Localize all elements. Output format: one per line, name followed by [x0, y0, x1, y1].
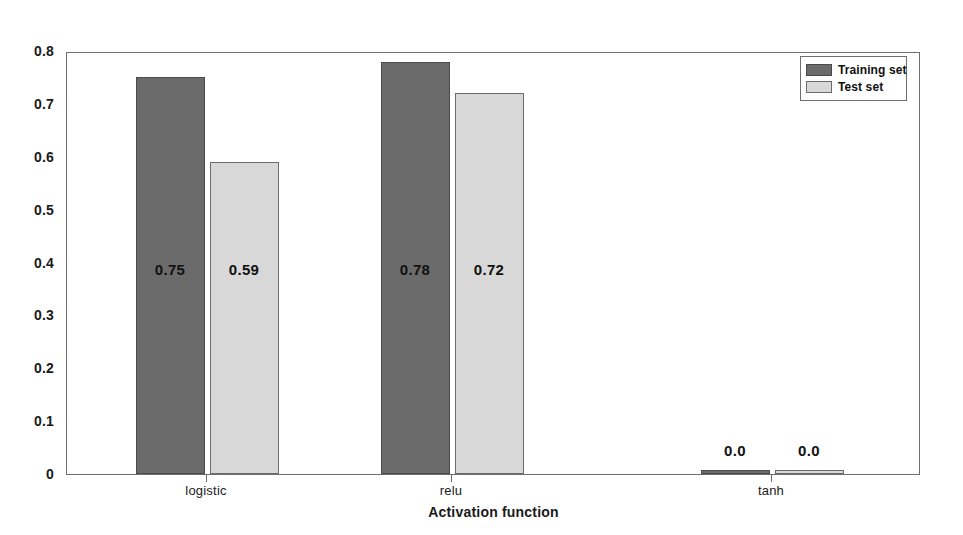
x-axis-category-label-relu: relu [440, 483, 462, 498]
x-axis-category-label-logistic: logistic [185, 483, 226, 498]
bar-value-label: 0.59 [229, 261, 259, 278]
y-axis-tick-label: 0.8 [34, 43, 54, 59]
legend-item-training-set: Training set [806, 61, 901, 78]
chart-legend: Training set Test set [800, 56, 907, 101]
bar-value-label: 0.78 [400, 261, 430, 278]
bar-tanh-test-set[interactable] [775, 470, 844, 474]
x-axis-category-label-tanh: tanh [758, 483, 784, 498]
x-axis-tick-mark [451, 475, 452, 482]
y-axis-tick-label: 0.6 [34, 149, 54, 165]
y-axis-tick-label: 0.3 [34, 307, 54, 323]
bar-value-label: 0.75 [155, 261, 185, 278]
y-axis-tick-label: 0.7 [34, 96, 54, 112]
y-axis-tick-label: 0.4 [34, 255, 54, 271]
bar-logistic-test-set[interactable] [210, 162, 279, 474]
y-axis-tick-label: 0 [46, 466, 54, 482]
legend-label-training-set: Training set [838, 63, 907, 77]
x-axis-title-text: Activation function [428, 504, 559, 520]
plot-area: 0.750.590.780.720.00.0 [66, 52, 920, 475]
x-axis-tick-mark [771, 475, 772, 482]
y-axis-tick-label: 0.2 [34, 360, 54, 376]
bar-relu-test-set[interactable] [455, 93, 524, 474]
y-axis-tick-label: 0.1 [34, 413, 54, 429]
legend-swatch-icon-training-set [806, 64, 832, 76]
legend-swatch-icon-test-set [806, 81, 832, 93]
legend-item-test-set: Test set [806, 78, 901, 95]
x-axis-title: Activation function [0, 504, 963, 520]
y-axis-tick-label: 0.5 [34, 202, 54, 218]
bar-tanh-training-set[interactable] [701, 470, 770, 474]
bar-value-label: 0.0 [798, 442, 820, 459]
legend-label-test-set: Test set [838, 80, 883, 94]
x-axis-tick-mark [206, 475, 207, 482]
bar-value-label: 0.72 [474, 261, 504, 278]
bar-chart-figure: 0.80.70.60.50.40.30.20.10 0.750.590.780.… [0, 0, 963, 535]
bar-value-label: 0.0 [724, 442, 746, 459]
